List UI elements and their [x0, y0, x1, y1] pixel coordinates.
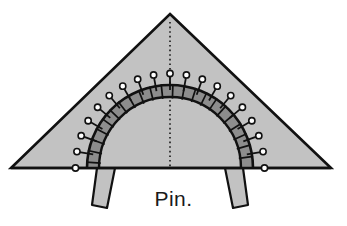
figure-container: Pin.	[0, 0, 347, 226]
figure-caption: Pin.	[0, 188, 347, 209]
pin-head-icon	[260, 148, 266, 154]
pin-head-icon	[183, 72, 189, 78]
pin-head-icon	[228, 93, 234, 99]
pin-head-icon	[199, 76, 205, 82]
pin-head-icon	[150, 72, 156, 78]
pin-head-icon	[78, 133, 84, 139]
pin-head-icon	[95, 104, 101, 110]
pin-head-icon	[135, 76, 141, 82]
pin-head-icon	[106, 93, 112, 99]
pin-head-icon	[214, 83, 220, 89]
pin-head-icon	[72, 165, 78, 171]
pin-head-icon	[261, 165, 267, 171]
pin-head-icon	[239, 104, 245, 110]
pin-head-icon	[85, 118, 91, 124]
pin-head-icon	[74, 148, 80, 154]
pin-head-icon	[249, 118, 255, 124]
pin-head-icon	[167, 70, 173, 76]
pin-head-icon	[256, 133, 262, 139]
pin-head-icon	[120, 83, 126, 89]
